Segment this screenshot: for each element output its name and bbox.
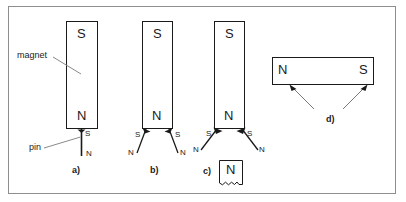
pin-a-near-pole: S: [85, 130, 90, 138]
pin-c-right-far-pole: N: [259, 146, 265, 154]
pin-c-right-near-pole: S: [247, 130, 252, 138]
magnet-d-left-pole: N: [278, 63, 287, 76]
pin-b-right-near-pole: S: [175, 131, 180, 139]
magnet-c-top-pole: S: [225, 27, 234, 40]
pin-b-left-near-pole: S: [135, 131, 140, 139]
magnet-b-top-pole: S: [153, 27, 162, 40]
pin-leader-line: [44, 137, 81, 148]
magnet-a-top-pole: S: [77, 27, 86, 40]
pin-c-left-far-pole: N: [193, 146, 199, 154]
pin-b-left-far-pole: N: [128, 149, 134, 157]
panel-c-caption: c): [203, 167, 211, 176]
magnet-a-bottom-pole: N: [77, 109, 86, 122]
panel-b-caption: b): [150, 166, 159, 175]
figure-canvas: S N S N a) magnet pin S N S S N N b) S N…: [0, 0, 406, 202]
pin-c-left-near-pole: S: [206, 130, 211, 138]
pin-b-right-far-pole: N: [180, 149, 186, 157]
arrow-d-right-shaft: [343, 87, 365, 109]
panel-d-caption: d): [326, 115, 335, 124]
magnet-b-bottom-pole: N: [152, 109, 161, 122]
pin-a-far-pole: N: [86, 150, 92, 158]
pin-annotation-label: pin: [29, 143, 41, 152]
panel-a-caption: a): [72, 166, 80, 175]
magnet-c-bottom-pole: N: [224, 109, 233, 122]
arrow-d-left-shaft: [292, 87, 314, 109]
magnet-d-right-pole: S: [359, 63, 368, 76]
magnet-fragment-c-pole: N: [226, 163, 235, 176]
magnet-annotation-label: magnet: [17, 51, 47, 60]
